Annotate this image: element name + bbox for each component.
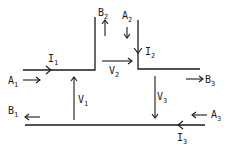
label-a3: A3	[211, 109, 221, 123]
label-v3: V3	[157, 91, 167, 105]
label-b3: B3	[205, 74, 215, 88]
label-v1: V1	[78, 94, 88, 108]
label-v2: V2	[109, 65, 119, 79]
label-i2: I2	[145, 46, 155, 60]
label-a2: A2	[122, 10, 132, 24]
label-a1: A1	[8, 75, 18, 89]
road-left-upper	[23, 17, 95, 70]
diagram-svg: A1 B1 I1 B2 A2 I2 V2 V1 V3 B3 A3 I3	[0, 0, 229, 152]
label-b2: B2	[98, 7, 108, 21]
label-i3: I3	[177, 132, 187, 146]
road-right-upper	[138, 20, 200, 69]
label-b1: B1	[8, 105, 18, 119]
label-i1: I1	[48, 53, 58, 67]
diagram-canvas: A1 B1 I1 B2 A2 I2 V2 V1 V3 B3 A3 I3	[0, 0, 229, 152]
